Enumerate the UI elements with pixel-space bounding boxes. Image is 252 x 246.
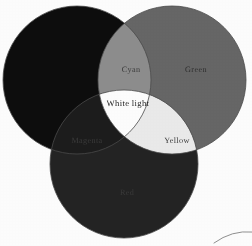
region-label-red: Red xyxy=(120,188,134,197)
region-label-yellow: Yellow xyxy=(164,136,189,145)
region-label-green: Green xyxy=(185,65,207,74)
venn-diagram-figure: Cyan Green White light Magenta Yellow Re… xyxy=(0,0,252,246)
region-label-magenta: Magenta xyxy=(71,136,102,145)
venn-diagram-canvas: Cyan Green White light Magenta Yellow Re… xyxy=(0,0,252,246)
region-label-white-light: White light xyxy=(107,98,150,108)
region-label-cyan: Cyan xyxy=(122,65,141,74)
